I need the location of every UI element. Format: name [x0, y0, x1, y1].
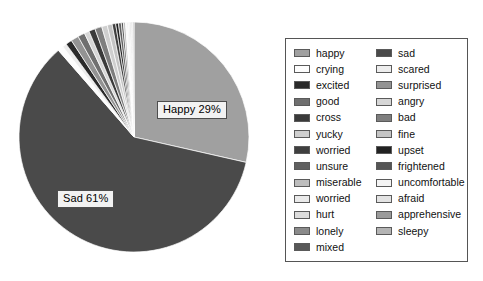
legend-item-label: happy — [316, 48, 345, 59]
pie-chart-figure: Happy 29% Sad 61% happycryingexcitedgood… — [0, 0, 483, 281]
legend-swatch-icon — [294, 162, 310, 170]
legend-swatch-icon — [376, 65, 392, 73]
legend-item[interactable]: mixed — [294, 239, 374, 255]
legend-item[interactable]: afraid — [376, 191, 467, 207]
legend-item[interactable]: frightened — [376, 158, 467, 174]
legend-columns: happycryingexcitedgoodcrossyuckyworriedu… — [286, 39, 467, 261]
legend-item-label: afraid — [398, 193, 424, 204]
legend-item[interactable]: good — [294, 94, 374, 110]
legend-swatch-icon — [376, 162, 392, 170]
legend-item-label: surprised — [398, 80, 441, 91]
legend-item-label: hurt — [316, 209, 334, 220]
legend-item-label: yucky — [316, 129, 343, 140]
legend-swatch-icon — [376, 98, 392, 106]
legend-swatch-icon — [294, 81, 310, 89]
legend-swatch-icon — [294, 49, 310, 57]
legend-item-label: lonely — [316, 226, 343, 237]
legend-item-label: crying — [316, 64, 344, 75]
legend-item-label: bad — [398, 112, 416, 123]
legend-swatch-icon — [294, 65, 310, 73]
legend-item[interactable]: lonely — [294, 223, 374, 239]
legend-swatch-icon — [294, 195, 310, 203]
legend-item-label: worried — [316, 145, 350, 156]
legend-item-label: fine — [398, 129, 415, 140]
legend-item[interactable]: surprised — [376, 77, 467, 93]
legend-swatch-icon — [294, 98, 310, 106]
legend-column-left: happycryingexcitedgoodcrossyuckyworriedu… — [286, 45, 374, 261]
pie-label-sad: Sad 61% — [57, 190, 114, 208]
legend-swatch-icon — [376, 179, 392, 187]
legend-item[interactable]: angry — [376, 94, 467, 110]
legend-swatch-icon — [376, 130, 392, 138]
legend-item[interactable]: cross — [294, 110, 374, 126]
legend-item[interactable]: sleepy — [376, 223, 467, 239]
legend-item-label: miserable — [316, 177, 362, 188]
legend-item-label: cross — [316, 112, 341, 123]
legend-swatch-icon — [376, 81, 392, 89]
legend-swatch-icon — [294, 114, 310, 122]
pie-label-happy: Happy 29% — [157, 101, 227, 119]
legend-swatch-icon — [376, 227, 392, 235]
legend-item[interactable]: uncomfortable — [376, 175, 467, 191]
legend-swatch-icon — [294, 243, 310, 251]
legend-item-label: good — [316, 96, 339, 107]
legend-item-label: unsure — [316, 161, 348, 172]
legend-swatch-icon — [376, 49, 392, 57]
legend-box: happycryingexcitedgoodcrossyuckyworriedu… — [285, 38, 468, 262]
legend-item-label: mixed — [316, 242, 344, 253]
legend-item-label: apprehensive — [398, 209, 461, 220]
legend-item-label: sad — [398, 48, 415, 59]
legend-item[interactable]: happy — [294, 45, 374, 61]
legend-item-label: scared — [398, 64, 430, 75]
legend-column-right: sadscaredsurprisedangrybadfineupsetfrigh… — [374, 45, 467, 261]
legend-item[interactable]: fine — [376, 126, 467, 142]
pie-chart-area: Happy 29% Sad 61% — [0, 0, 270, 281]
legend-item[interactable]: upset — [376, 142, 467, 158]
legend-item[interactable]: crying — [294, 61, 374, 77]
legend-item[interactable]: bad — [376, 110, 467, 126]
legend-item-label: upset — [398, 145, 424, 156]
pie-slices-group — [19, 22, 249, 252]
legend-swatch-icon — [294, 146, 310, 154]
legend-swatch-icon — [376, 146, 392, 154]
legend-swatch-icon — [376, 211, 392, 219]
legend-item[interactable]: worried — [294, 142, 374, 158]
legend-swatch-icon — [294, 130, 310, 138]
pie-chart-svg — [0, 0, 270, 281]
legend-item-label: excited — [316, 80, 349, 91]
legend-item-label: frightened — [398, 161, 445, 172]
legend-item-label: sleepy — [398, 226, 428, 237]
legend-item[interactable]: unsure — [294, 158, 374, 174]
legend-item-label: angry — [398, 96, 424, 107]
legend-swatch-icon — [376, 195, 392, 203]
legend-item-label: worried — [316, 193, 350, 204]
legend-swatch-icon — [294, 227, 310, 235]
legend-item[interactable]: excited — [294, 77, 374, 93]
legend-item[interactable]: hurt — [294, 207, 374, 223]
legend-swatch-icon — [294, 211, 310, 219]
legend-item[interactable]: yucky — [294, 126, 374, 142]
legend-item[interactable]: miserable — [294, 175, 374, 191]
legend-item[interactable]: sad — [376, 45, 467, 61]
legend-item[interactable]: worried — [294, 191, 374, 207]
legend-item-label: uncomfortable — [398, 177, 465, 188]
legend-swatch-icon — [294, 179, 310, 187]
legend-item[interactable]: scared — [376, 61, 467, 77]
legend-swatch-icon — [376, 114, 392, 122]
legend-item[interactable]: apprehensive — [376, 207, 467, 223]
